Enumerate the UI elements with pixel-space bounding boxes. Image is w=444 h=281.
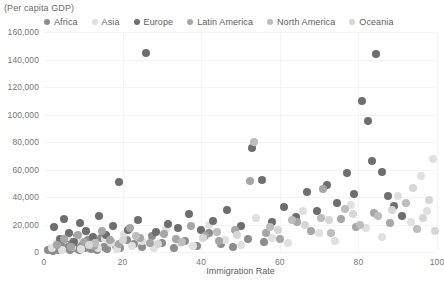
legend-swatch-icon [187,19,193,25]
data-point [213,228,221,236]
data-point [70,238,78,246]
y-axis-tick-label: 120,000 [8,82,39,92]
data-point [76,219,84,227]
x-axis-title-text: Immigration Rate [206,266,275,276]
data-point [181,237,189,245]
data-point [115,240,123,248]
data-point [91,239,99,247]
data-point [60,235,68,243]
data-point [49,247,57,255]
gridline-horizontal [44,142,437,143]
gridline-horizontal [44,87,437,88]
y-axis-tick-label: 80,000 [12,137,39,147]
data-point [44,246,52,254]
gridline-vertical [280,32,281,252]
data-point [237,222,245,230]
data-point [123,236,131,244]
legend-item-label: Asia [102,17,120,27]
data-point [423,207,431,215]
data-point [341,205,349,213]
data-point [89,233,97,241]
gridline-horizontal [44,252,437,253]
data-point [358,97,366,105]
data-point [148,232,156,240]
data-point [107,239,115,247]
data-point [64,243,72,251]
data-point [337,215,345,223]
data-point [417,172,425,180]
data-point [299,207,307,215]
data-point [288,216,296,224]
data-point [231,226,239,234]
data-point [244,235,252,243]
gridline-vertical [358,32,359,252]
data-point [68,243,76,251]
data-point [170,244,178,252]
data-point [303,188,311,196]
data-point [189,242,197,250]
data-point [120,230,128,238]
data-point [374,212,382,220]
data-point [68,238,76,246]
data-point [347,201,355,209]
y-axis-tick-label: 40,000 [12,192,39,202]
data-point [223,206,231,214]
data-point [325,216,333,224]
data-point [146,239,154,247]
data-point [390,202,398,210]
data-point [331,237,339,245]
data-point [252,214,260,222]
y-axis-tick-label: 140,000 [8,55,39,65]
data-point [142,49,150,57]
gridline-horizontal [44,170,437,171]
legend-item-north-america[interactable]: North America [267,17,335,27]
data-point [201,232,209,240]
legend-item-label: Oceania [359,17,393,27]
data-point [88,241,96,249]
data-point [80,238,88,246]
data-point [66,246,74,254]
data-point [229,243,237,251]
data-point [398,212,406,220]
data-point [84,236,92,244]
data-point [221,236,229,244]
data-point [74,231,82,239]
data-point [85,241,93,249]
data-point [154,240,162,248]
data-point [95,212,103,220]
data-point [280,203,288,211]
data-point [56,235,64,243]
data-point [94,244,102,252]
data-point [333,199,341,207]
data-point [187,222,195,230]
legend-swatch-icon [44,19,50,25]
legend-item-oceania[interactable]: Oceania [349,17,393,27]
gridline-vertical [201,32,202,252]
data-point [60,215,68,223]
data-point [323,181,331,189]
legend-item-africa[interactable]: Africa [44,17,78,27]
data-point [132,232,140,240]
data-point [152,228,160,236]
data-point [102,231,110,239]
data-point [258,176,266,184]
data-point [193,242,201,250]
data-point [378,233,386,241]
data-point [386,219,394,227]
data-point [174,224,182,232]
data-point [185,210,193,218]
legend-item-latin-america[interactable]: Latin America [187,17,253,27]
data-point [52,242,60,250]
legend-item-label: North America [277,17,335,27]
y-axis-tick-label: 100,000 [8,110,39,120]
legend-item-asia[interactable]: Asia [92,17,120,27]
y-axis-tick-label: 160,000 [8,27,39,37]
data-point [82,227,90,235]
data-point [138,237,146,245]
data-point [327,229,335,237]
data-point [413,225,421,233]
data-point [130,240,138,248]
data-point [388,206,396,214]
legend-item-europe[interactable]: Europe [134,17,174,27]
